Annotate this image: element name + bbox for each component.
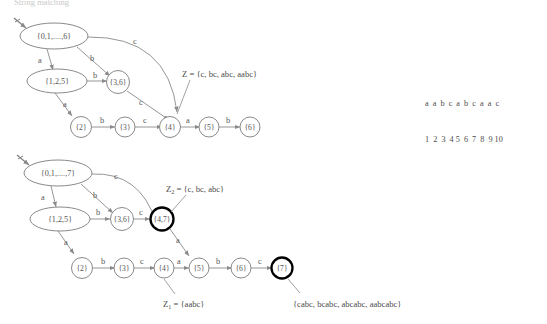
edge-label: a bbox=[64, 238, 68, 247]
start-arrow-bottom bbox=[17, 155, 29, 165]
edge-label: a bbox=[63, 100, 67, 109]
node-label: {2} bbox=[75, 123, 86, 132]
z-annotation-top: Z = {c, bc, abc, aabc} bbox=[177, 69, 257, 114]
edge-label: c bbox=[140, 257, 144, 266]
edge-label: a bbox=[177, 257, 181, 266]
node-s4[interactable]: {4} bbox=[160, 117, 181, 138]
node-t4[interactable]: {4} bbox=[154, 258, 174, 278]
node-label: {4} bbox=[164, 123, 175, 132]
z-label: Z = {c, bc, abc, aabc} bbox=[182, 69, 257, 79]
node-s2[interactable]: {2} bbox=[71, 117, 92, 138]
node-label: {3,6} bbox=[110, 78, 127, 87]
node-label: {3,6} bbox=[114, 215, 131, 224]
z2-label: Z2 = {c, bc, abc} bbox=[166, 184, 224, 195]
edge-label: b bbox=[216, 257, 220, 266]
node-s5[interactable]: {5} bbox=[199, 117, 219, 137]
z2-annotation: Z2 = {c, bc, abc} bbox=[166, 184, 224, 212]
edge-label: a bbox=[176, 236, 180, 245]
node-label: {4,7} bbox=[154, 215, 171, 224]
accept-set-annotation: {cabc, bcabc, abcabc, aabcabc} bbox=[288, 279, 401, 309]
node-t6[interactable]: {6} bbox=[231, 258, 251, 278]
input-string-panel: a a b c a b c a a c 1 2 3 4 5 6 7 8 9 10 bbox=[425, 74, 503, 170]
figure-root: String matching bbox=[0, 0, 547, 324]
diagram-bottom: a b c b a c a b c a b c {0,1,....,7} {1,… bbox=[17, 155, 401, 310]
edge-label: c bbox=[258, 257, 262, 266]
node-label: {3} bbox=[119, 123, 130, 132]
node-t7[interactable]: {7} bbox=[272, 258, 293, 279]
node-s125[interactable]: {1,2,5} bbox=[27, 69, 87, 93]
node-label: {5} bbox=[193, 264, 204, 273]
node-label: {0,1,....,7} bbox=[41, 169, 76, 178]
edge-label: a bbox=[41, 193, 45, 202]
node-label: {2} bbox=[76, 264, 87, 273]
node-label: {5} bbox=[203, 123, 214, 132]
node-s36[interactable]: {3,6} bbox=[107, 71, 130, 94]
node-label: {0,1,....,6} bbox=[37, 32, 72, 41]
node-label: {7} bbox=[276, 264, 287, 273]
node-s0[interactable]: {0,1,....,6} bbox=[20, 23, 88, 49]
z2-body: = {c, bc, abc} bbox=[174, 184, 224, 194]
start-arrow-top bbox=[14, 18, 26, 28]
edge-label: b bbox=[93, 191, 97, 200]
z1-label: Z1 = {aabc} bbox=[163, 299, 204, 310]
node-s3[interactable]: {3} bbox=[115, 117, 135, 137]
node-s6[interactable]: {6} bbox=[240, 117, 260, 137]
z1-annotation: Z1 = {aabc} bbox=[163, 279, 204, 310]
edge-label: b bbox=[93, 71, 97, 80]
node-t125[interactable]: {1,2,5} bbox=[30, 207, 90, 231]
input-string-symbols: a a b c a b c a a c bbox=[425, 98, 503, 110]
edge-label: a bbox=[186, 116, 190, 125]
edge-label: c bbox=[133, 37, 137, 46]
z1-body: = {aabc} bbox=[171, 299, 204, 309]
edge-label: c bbox=[139, 98, 143, 107]
node-t0[interactable]: {0,1,....,7} bbox=[24, 160, 92, 186]
edge-label: b bbox=[226, 116, 230, 125]
node-t5[interactable]: {5} bbox=[189, 258, 209, 278]
node-t2[interactable]: {2} bbox=[72, 258, 93, 279]
edge-label: c bbox=[114, 172, 118, 181]
node-label: {1,2,5} bbox=[48, 215, 72, 224]
edge-label: b bbox=[96, 208, 100, 217]
node-label: {6} bbox=[244, 123, 255, 132]
edge-label: b bbox=[100, 116, 104, 125]
edge-label: a bbox=[38, 56, 42, 65]
node-t47[interactable]: {4,7} bbox=[151, 208, 174, 231]
node-label: {4} bbox=[158, 264, 169, 273]
input-string-indices: 1 2 3 4 5 6 7 8 9 10 bbox=[425, 134, 503, 146]
edge-label: c bbox=[139, 208, 143, 217]
node-label: {6} bbox=[235, 264, 246, 273]
edge-label: b bbox=[101, 257, 105, 266]
edge-label: c bbox=[143, 116, 147, 125]
node-t36[interactable]: {3,6} bbox=[111, 208, 134, 231]
node-label: {1,2,5} bbox=[45, 77, 69, 86]
accept-set-label: {cabc, bcabc, abcabc, aabcabc} bbox=[293, 299, 401, 309]
node-t3[interactable]: {3} bbox=[114, 258, 134, 278]
edge-label: b bbox=[90, 54, 94, 63]
diagram-top: a b c b a c b c a b {0,1,....,6} {1,2,5} bbox=[14, 18, 260, 138]
node-label: {3} bbox=[118, 264, 129, 273]
